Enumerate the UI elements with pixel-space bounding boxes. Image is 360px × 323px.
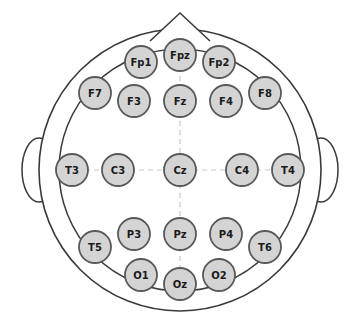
electrode-p3[interactable]: P3	[118, 218, 150, 250]
electrode-t6[interactable]: T6	[249, 231, 281, 263]
electrode-f3[interactable]: F3	[118, 85, 150, 117]
electrode-pz[interactable]: Pz	[164, 218, 196, 250]
electrode-circle[interactable]	[249, 231, 281, 263]
electrode-f7[interactable]: F7	[79, 77, 111, 109]
electrode-circle[interactable]	[226, 154, 258, 186]
electrode-circle[interactable]	[125, 46, 157, 78]
electrode-c4[interactable]: C4	[226, 154, 258, 186]
electrode-fp2[interactable]: Fp2	[203, 46, 235, 78]
electrode-t4[interactable]: T4	[272, 154, 304, 186]
electrode-oz[interactable]: Oz	[164, 268, 196, 300]
electrode-fpz[interactable]: Fpz	[164, 39, 196, 71]
electrode-circle[interactable]	[56, 154, 88, 186]
electrode-circle[interactable]	[79, 77, 111, 109]
electrode-circle[interactable]	[164, 39, 196, 71]
electrode-o1[interactable]: O1	[125, 259, 157, 291]
electrode-t3[interactable]: T3	[56, 154, 88, 186]
electrode-circle[interactable]	[164, 218, 196, 250]
electrode-circle[interactable]	[79, 231, 111, 263]
electrode-f4[interactable]: F4	[210, 85, 242, 117]
electrode-o2[interactable]: O2	[203, 259, 235, 291]
electrode-circle[interactable]	[102, 154, 134, 186]
electrode-f8[interactable]: F8	[249, 77, 281, 109]
electrode-p4[interactable]: P4	[210, 218, 242, 250]
electrode-fz[interactable]: Fz	[164, 85, 196, 117]
electrode-circle[interactable]	[249, 77, 281, 109]
electrode-fp1[interactable]: Fp1	[125, 46, 157, 78]
electrode-circle[interactable]	[118, 218, 150, 250]
electrode-t5[interactable]: T5	[79, 231, 111, 263]
electrode-circle[interactable]	[210, 85, 242, 117]
electrode-circle[interactable]	[118, 85, 150, 117]
electrode-circle[interactable]	[125, 259, 157, 291]
electrode-circle[interactable]	[210, 218, 242, 250]
nose-icon	[150, 13, 210, 41]
electrode-circle[interactable]	[164, 268, 196, 300]
electrode-circle[interactable]	[203, 46, 235, 78]
eeg-electrode-diagram: Fp1FpzFp2F7F3FzF4F8T3C3CzC4T4T5P3PzP4T6O…	[0, 0, 360, 323]
electrode-circle[interactable]	[203, 259, 235, 291]
electrode-c3[interactable]: C3	[102, 154, 134, 186]
electrode-cz[interactable]: Cz	[164, 154, 196, 186]
electrode-circle[interactable]	[272, 154, 304, 186]
electrode-circle[interactable]	[164, 154, 196, 186]
electrode-circle[interactable]	[164, 85, 196, 117]
